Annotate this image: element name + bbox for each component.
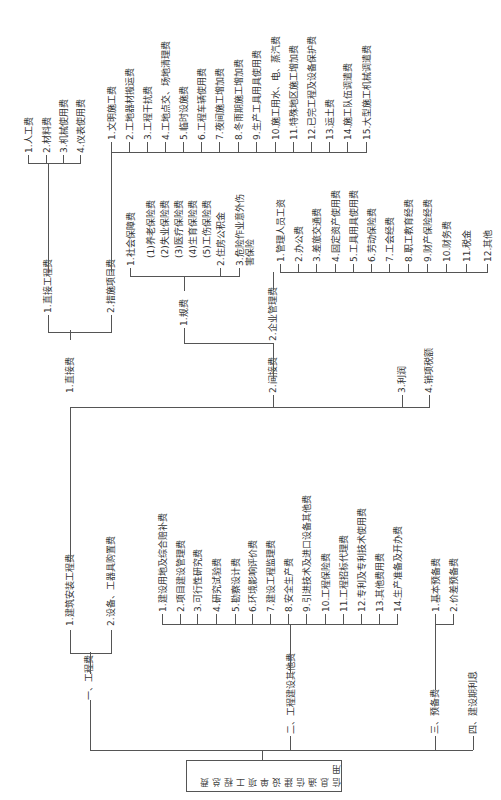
- node-housing-fund: 2.住房公积金: [216, 212, 226, 266]
- node-measure: 2.工地器材搬运费: [125, 68, 135, 140]
- connector: [408, 264, 409, 272]
- node-other-item: 3.可行性研究费: [193, 549, 203, 612]
- node-measure: 1.文明施工费: [107, 86, 117, 140]
- connector: [298, 264, 299, 272]
- node-mgmt-item: 4.固定资产使用费: [331, 190, 341, 262]
- measures-trunk: [111, 152, 367, 153]
- connector: [184, 276, 185, 291]
- node-mgmt-item: 3.差旅交通费: [312, 208, 322, 262]
- node-other-item: 4.研究试验费: [212, 558, 222, 612]
- node-mgmt-item: 10.财务费: [442, 221, 452, 262]
- connector: [290, 625, 291, 673]
- connector: [389, 264, 390, 272]
- connector: [273, 272, 274, 290]
- connector: [28, 163, 81, 164]
- connector: [435, 736, 436, 750]
- node-regulatory-fees: 1.规费: [179, 299, 189, 326]
- connector: [238, 142, 239, 152]
- connector: [129, 142, 130, 152]
- node-maternity-insurance: (4)生育保险费: [188, 200, 198, 258]
- connector: [280, 272, 488, 273]
- connector: [325, 614, 326, 624]
- node-unemployment-insurance: (2)失业保险费: [160, 200, 170, 258]
- connector: [63, 155, 64, 163]
- node-measure: 4.工地点交、场地清理费: [161, 41, 171, 140]
- connector: [90, 700, 91, 750]
- node-reserve-fee: 三、预备费: [430, 689, 440, 734]
- node-other-item: 8.安全生产费: [284, 558, 294, 612]
- level1-trunk: [90, 750, 473, 751]
- node-measure: 11.特殊地区施工增加费: [289, 45, 299, 140]
- root-node: 信息通信建设单项工程总费用: [186, 760, 342, 792]
- node-mgmt-item: 12.其他: [483, 230, 493, 262]
- connector: [216, 614, 217, 624]
- node-other-item: 1.建设用地及综合赔补费: [158, 513, 168, 612]
- connector: [353, 264, 354, 272]
- node-measure: 6.工程车辆使用费: [197, 68, 207, 140]
- connector: [361, 614, 362, 624]
- node-profit: 3.利润: [397, 366, 407, 393]
- node-measure: 12.已完工程及设备保护费: [307, 36, 317, 140]
- node-other-item: 14.生产准备及开办费: [393, 526, 403, 612]
- connector: [262, 750, 263, 760]
- connector: [111, 142, 112, 152]
- connector: [427, 264, 428, 272]
- node-mgmt-item: 6.劳动保险费: [367, 208, 377, 262]
- connector: [379, 614, 380, 624]
- node-other-item: 6.环境影响评价费: [248, 540, 258, 612]
- connector: [130, 268, 131, 276]
- connector: [453, 614, 454, 624]
- connector: [371, 264, 372, 272]
- connector: [473, 736, 474, 750]
- connector: [270, 614, 271, 624]
- node-other-item: 9.引进技术及进口设备其他费: [302, 495, 312, 612]
- connector: [429, 395, 430, 407]
- connector: [239, 268, 240, 276]
- connector: [90, 652, 91, 674]
- node-mgmt-item: 5.工具用具使用费: [349, 190, 359, 262]
- connector: [111, 152, 112, 272]
- connector: [280, 264, 281, 272]
- cost-tree-diagram: 信息通信建设单项工程总费用 一、工程费 二、工程建设其他费 三、预备费 四、建设…: [0, 0, 501, 800]
- node-other-item: 13.其他费用费: [375, 553, 385, 612]
- connector: [256, 142, 257, 152]
- connector: [28, 155, 29, 163]
- connector: [397, 614, 398, 624]
- node-mgmt-item: 8.职工教育经费: [404, 199, 414, 262]
- node-mgmt-item: 9.财产保险经费: [423, 199, 433, 262]
- node-instrument-fee: 4.仪表使用费: [76, 99, 86, 153]
- connector: [252, 614, 253, 624]
- connector: [220, 268, 221, 276]
- connector: [184, 328, 185, 343]
- connector: [343, 614, 344, 624]
- node-other-item: 7.建设工程监理费: [266, 540, 276, 612]
- connector: [311, 142, 312, 152]
- connector: [347, 142, 348, 152]
- node-measure: 9.生产工具用具使用费: [252, 50, 262, 140]
- connector: [201, 142, 202, 152]
- other-construction-trunk: [162, 624, 398, 625]
- connector: [435, 625, 436, 690]
- connector: [48, 332, 112, 333]
- node-hazard-insurance: 3.危险作业意外伤害保险: [235, 191, 255, 266]
- node-measure: 10.施工用水、电、蒸汽费: [271, 36, 281, 140]
- connector: [111, 315, 112, 332]
- node-basic-reserve: 1.基本预备费: [431, 558, 441, 612]
- node-mgmt-item: 2.办公费: [294, 226, 304, 262]
- connector: [147, 142, 148, 152]
- connector: [329, 142, 330, 152]
- node-construction-interest: 四、建设期利息: [468, 671, 478, 734]
- connector: [165, 142, 166, 152]
- connector: [466, 264, 467, 272]
- connector: [273, 343, 274, 378]
- connector: [235, 614, 236, 624]
- connector: [48, 315, 49, 332]
- connector: [46, 155, 47, 163]
- node-other-item: 5.勘察设计费: [231, 558, 241, 612]
- node-other-item: 11.工程招标代理费: [339, 535, 349, 612]
- connector: [290, 736, 291, 750]
- connector: [197, 614, 198, 624]
- install-trunk: [70, 407, 430, 408]
- connector: [288, 614, 289, 624]
- connector: [275, 142, 276, 152]
